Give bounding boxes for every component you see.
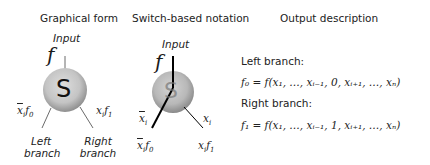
header-output-description: Output description xyxy=(280,12,378,24)
switch-left-var: xi xyxy=(139,112,147,127)
switch-input-label: Input xyxy=(162,38,189,50)
switch-left-output: xif0 xyxy=(137,139,154,154)
graphical-right-edge-label: xif1 xyxy=(96,104,113,119)
graphical-input-symbol: f xyxy=(47,43,54,67)
right-branch-formula: f₁ = f(x₁, …, xᵢ₋₁, 1, xᵢ₊₁, …, xₙ) xyxy=(241,119,400,131)
left-branch-label: Leftbranch xyxy=(24,135,58,159)
header-graphical-form: Graphical form xyxy=(40,12,118,24)
header-switch-notation: Switch-based notation xyxy=(132,12,249,24)
left-branch-formula: f₀ = f(x₁, …, xᵢ₋₁, 0, xᵢ₊₁, …, xₙ) xyxy=(241,76,400,88)
switch-right-output: xif1 xyxy=(198,139,215,154)
switch-right-var: xi xyxy=(203,112,211,127)
right-branch-title: Right branch: xyxy=(241,97,312,109)
right-branch-label: Rightbranch xyxy=(78,135,118,159)
left-branch-title: Left branch: xyxy=(241,55,304,67)
graphical-input-label: Input xyxy=(53,32,80,44)
graphical-node-letter: S xyxy=(56,75,71,103)
switch-input-symbol: f xyxy=(155,50,162,74)
graphical-left-edge-label: xif0 xyxy=(17,104,34,119)
switch-node-letter: S xyxy=(164,78,178,103)
